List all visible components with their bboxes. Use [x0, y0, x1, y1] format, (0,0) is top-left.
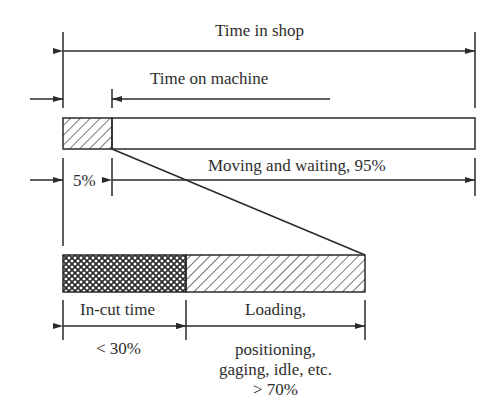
loading-segment [186, 255, 365, 292]
loading-label-line1: Loading, [186, 301, 365, 318]
in-cut-percent-label: < 30% [96, 340, 141, 357]
in-cut-segment [63, 255, 186, 292]
moving-waiting-segment [112, 118, 475, 149]
machine-time-segment [63, 118, 112, 149]
in-cut-label: In-cut time [80, 301, 155, 318]
moving-waiting-label: Moving and waiting, 95% [208, 157, 386, 174]
loading-label-line2: positioning, [186, 341, 365, 358]
machine-percent-label: 5% [73, 172, 96, 189]
time-on-machine-label: Time on machine [150, 70, 268, 87]
loading-label-line3: gaging, idle, etc. [186, 361, 365, 378]
time-in-shop-label: Time in shop [215, 22, 304, 39]
loading-percent-label: > 70% [186, 381, 365, 398]
